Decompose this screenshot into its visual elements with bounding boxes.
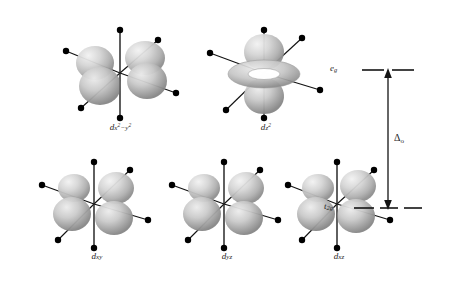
ligand-dots (39, 159, 151, 251)
orbital-dz2-graphic (196, 18, 336, 128)
crystal-field-splitting-diagram: eg t2g Δo (322, 40, 447, 240)
orbital-dx2-y2-label: dx2−y2 (48, 122, 193, 132)
orbital-dyz: dyz (162, 152, 292, 272)
orbital-dyz-label: dyz (162, 251, 292, 261)
ligand-dots (169, 159, 281, 251)
delta-o-label: Δo (394, 132, 404, 145)
orbital-dxy: dxy (32, 152, 162, 272)
orbital-lobes (228, 34, 300, 114)
splitting-diagram-graphic (322, 40, 447, 240)
orbital-dz2-label: dz2 (196, 122, 336, 132)
orbital-dyz-graphic (162, 152, 292, 257)
orbital-figure: dx2−y2 (0, 0, 451, 297)
delta-o-arrow (384, 68, 392, 210)
orbital-dz2: dz2 (196, 18, 336, 138)
eg-level-label: eg (330, 63, 337, 73)
orbital-dx2-y2-graphic (48, 18, 193, 128)
t2g-level-label: t2g (324, 201, 333, 211)
orbital-dxy-label: dxy (32, 251, 162, 261)
orbital-dx2-y2: dx2−y2 (48, 18, 193, 138)
orbital-dxz-label: dxz (274, 251, 404, 261)
orbital-dxy-graphic (32, 152, 162, 257)
